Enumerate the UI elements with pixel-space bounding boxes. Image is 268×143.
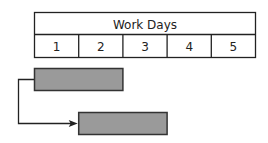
day-label-5: 5 (230, 40, 238, 54)
table-title: Work Days (113, 18, 177, 32)
work-days-table: Work Days 12345 (35, 13, 256, 58)
task-bar-1 (35, 69, 123, 91)
day-label-2: 2 (97, 40, 105, 54)
gantt-diagram: Work Days 12345 (0, 0, 268, 143)
task-bar-2 (79, 113, 167, 135)
day-label-1: 1 (53, 40, 61, 54)
day-label-3: 3 (141, 40, 149, 54)
day-label-4: 4 (185, 40, 193, 54)
